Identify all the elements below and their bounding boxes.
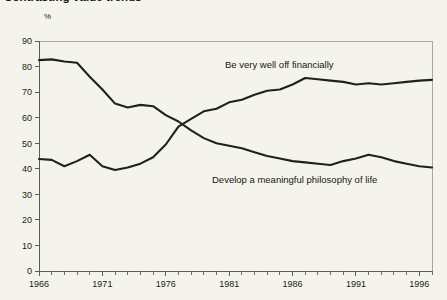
x-tick-label: 1996	[409, 279, 429, 289]
series-annotation-0: Be very well off financially	[225, 59, 334, 70]
x-tick-label: 1971	[92, 279, 112, 289]
y-axis-ticks: 0102030405060708090	[22, 36, 39, 276]
y-tick-label: 50	[22, 139, 32, 149]
series-line-0	[39, 59, 432, 167]
x-tick-label: 1986	[283, 279, 303, 289]
series-annotation-1: Develop a meaningful philosophy of life	[212, 174, 377, 185]
y-tick-label: 80	[22, 62, 32, 72]
y-tick-label: 60	[22, 113, 32, 123]
line-chart-plot: 0102030405060708090 19661971197619811986…	[0, 0, 447, 300]
x-tick-label: 1991	[346, 279, 366, 289]
y-tick-label: 0	[27, 266, 32, 276]
y-tick-label: 70	[22, 87, 32, 97]
data-series-group	[39, 59, 432, 170]
chart-container: Contrasting value trends % 0102030405060…	[0, 0, 447, 300]
x-tick-label: 1981	[219, 279, 239, 289]
y-tick-label: 30	[22, 190, 32, 200]
y-tick-label: 40	[22, 164, 32, 174]
y-tick-label: 90	[22, 36, 32, 46]
x-tick-label: 1976	[156, 279, 176, 289]
series-annotations: Be very well off financiallyDevelop a me…	[212, 59, 377, 185]
y-tick-label: 10	[22, 241, 32, 251]
x-tick-label: 1966	[29, 279, 49, 289]
x-axis-ticks: 1966197119761981198619911996	[29, 271, 432, 289]
y-tick-label: 20	[22, 215, 32, 225]
